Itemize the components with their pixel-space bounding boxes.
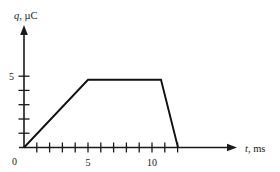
y-axis-group (20, 25, 28, 148)
y-tick-label-5: 5 (9, 71, 14, 82)
y-axis-label-unit: , µC (19, 10, 37, 21)
y-axis-label: q, µC (14, 10, 38, 21)
x-axis-label-unit: , ms (248, 143, 266, 154)
x-axis-label: t, ms (245, 143, 265, 154)
charge-curve (24, 80, 178, 148)
y-axis-arrowhead (20, 25, 28, 35)
x-tick-label-5: 5 (86, 157, 91, 168)
svg-text:t, ms: t, ms (245, 143, 265, 154)
x-axis-group (19, 144, 237, 152)
chart-canvas: 0 5 5 10 q, µC t, ms (0, 0, 280, 172)
origin-label: 0 (12, 156, 17, 167)
x-tick-label-10: 10 (147, 157, 157, 168)
charge-vs-time-figure: 0 5 5 10 q, µC t, ms (0, 0, 280, 172)
svg-text:q, µC: q, µC (14, 10, 38, 21)
x-axis-arrowhead (227, 144, 237, 152)
